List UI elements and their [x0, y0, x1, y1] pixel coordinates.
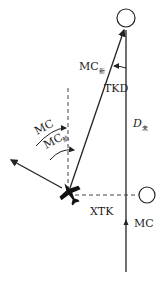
mc-hang-angle-arc — [50, 150, 74, 160]
xtk-label: XTK — [90, 205, 114, 218]
destination-waypoint-circle — [117, 9, 135, 27]
mc-track-label: MC — [134, 217, 154, 230]
tkd-label: TKD — [104, 82, 129, 95]
current-heading-line — [11, 160, 62, 188]
abeam-point-circle — [139, 187, 155, 203]
aircraft-icon — [55, 178, 86, 209]
mc-new-angle-arc — [114, 66, 126, 68]
mc-new-label: MC新 — [79, 60, 105, 75]
track-direction-arrow — [124, 219, 129, 225]
d-remaining-label: D未 — [132, 117, 148, 132]
new-course-line — [70, 30, 124, 188]
navigation-diagram: MC新 TKD MC MC航 D未 XTK MC — [0, 0, 161, 282]
